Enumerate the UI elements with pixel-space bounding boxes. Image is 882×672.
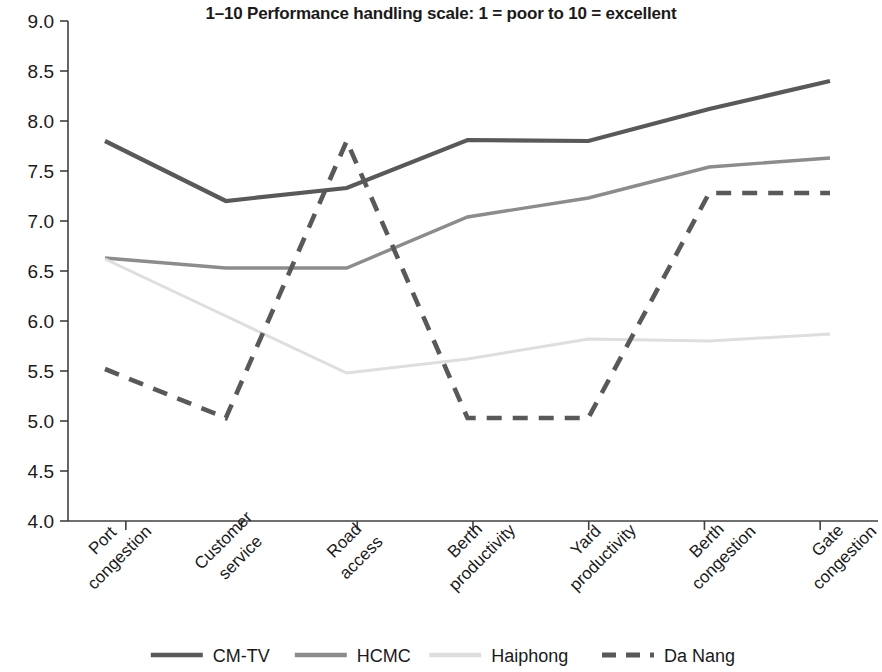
x-tick-label: Gatecongestion (792, 505, 881, 594)
y-tick-label: 9.0 (28, 11, 54, 32)
series-lines (105, 81, 830, 418)
x-tick-label: Berthproductivity (428, 503, 520, 595)
y-tick-label: 5.0 (28, 411, 54, 432)
y-tick-label: 6.5 (28, 261, 54, 282)
legend-label: CM-TV (213, 646, 270, 666)
y-tick-label: 7.0 (28, 211, 54, 232)
legend-item-cm-tv[interactable]: CM-TV (151, 646, 270, 666)
y-tick-label: 8.0 (28, 111, 54, 132)
series-line-cm-tv (105, 81, 830, 201)
legend-item-haiphong[interactable]: Haiphong (429, 646, 568, 666)
x-tick-label: Roadaccess (319, 515, 387, 583)
x-tick-label: Customerservice (191, 508, 274, 591)
y-tick-label: 6.0 (28, 311, 54, 332)
legend-label: Haiphong (491, 646, 568, 666)
svg-text:congestion: congestion (84, 522, 156, 594)
series-line-hcmc (105, 158, 830, 268)
y-tick-label: 7.5 (28, 161, 54, 182)
chart-plot-area: 4.04.55.05.56.06.57.07.58.08.59.0 Portco… (0, 0, 882, 672)
line-chart: 1–10 Performance handling scale: 1 = poo… (0, 0, 882, 672)
chart-legend: CM-TVHCMCHaiphongDa Nang (151, 646, 735, 666)
x-tick-label: Berthcongestion (671, 505, 760, 594)
series-line-da-nang (105, 141, 830, 418)
x-axis: PortcongestionCustomerserviceRoadaccessB… (67, 503, 881, 595)
y-tick-label: 5.5 (28, 361, 54, 382)
y-tick-label: 8.5 (28, 61, 54, 82)
legend-label: HCMC (357, 646, 411, 666)
x-tick-label: Yardproductivity (549, 503, 641, 595)
x-tick-label: Portcongestion (67, 505, 156, 594)
series-line-haiphong (105, 259, 830, 373)
y-tick-label: 4.5 (28, 461, 54, 482)
y-tick-label: 4.0 (28, 511, 54, 532)
legend-item-hcmc[interactable]: HCMC (295, 646, 411, 666)
legend-label: Da Nang (664, 646, 735, 666)
y-axis: 4.04.55.05.56.06.57.07.58.08.59.0 (28, 11, 68, 532)
legend-item-da-nang[interactable]: Da Nang (602, 646, 735, 666)
